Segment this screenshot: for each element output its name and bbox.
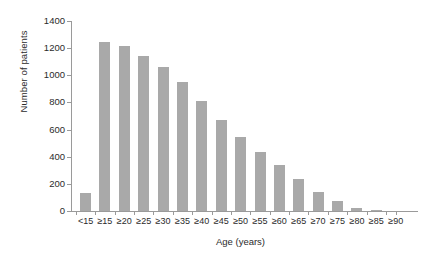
- bar: [99, 42, 110, 211]
- x-tick-mark: [289, 211, 290, 215]
- bar: [80, 193, 91, 211]
- x-tick-mark: [192, 211, 193, 215]
- x-tick-label: ≥80: [347, 217, 366, 226]
- y-tick-mark: [67, 184, 71, 185]
- bar: [313, 192, 324, 211]
- x-tick-label: ≥65: [289, 217, 308, 226]
- x-tick-mark: [396, 211, 397, 215]
- y-tick-label: 1200: [44, 43, 65, 53]
- x-tick-label: ≥60: [270, 217, 289, 226]
- x-tick-mark: [212, 211, 213, 215]
- x-tick-label: ≥85: [367, 217, 386, 226]
- x-tick-mark: [134, 211, 135, 215]
- x-tick-label: ≥15: [95, 217, 114, 226]
- x-tick-mark: [386, 211, 387, 215]
- x-tick-mark: [347, 211, 348, 215]
- x-tick-label: ≥40: [192, 217, 211, 226]
- x-tick-label: ≥25: [134, 217, 153, 226]
- bar: [255, 152, 266, 211]
- x-axis-title: Age (years): [63, 236, 418, 247]
- y-tick-mark: [67, 75, 71, 76]
- x-tick-label: ≥50: [231, 217, 250, 226]
- x-tick-mark: [115, 211, 116, 215]
- y-tick-mark: [67, 102, 71, 103]
- x-tick-mark: [270, 211, 271, 215]
- x-tick-mark: [95, 211, 96, 215]
- y-tick-mark: [67, 211, 71, 212]
- x-tick-mark: [153, 211, 154, 215]
- bar: [216, 120, 227, 211]
- y-tick-label: 0: [60, 206, 65, 216]
- x-tick-mark: [250, 211, 251, 215]
- x-tick-label: ≥75: [328, 217, 347, 226]
- x-tick-mark: [308, 211, 309, 215]
- bar: [177, 82, 188, 211]
- bar: [119, 46, 130, 211]
- bar: [293, 179, 304, 211]
- bar: [332, 201, 343, 211]
- bar: [351, 208, 362, 211]
- x-tick-mark: [173, 211, 174, 215]
- y-axis-line: [71, 21, 72, 211]
- y-tick-mark: [67, 157, 71, 158]
- y-tick-label: 200: [49, 179, 65, 189]
- x-tick-label: ≥90: [386, 217, 405, 226]
- x-tick-label: ≥70: [308, 217, 327, 226]
- plot-area: 0200400600800100012001400 <15≥15≥20≥25≥3…: [71, 21, 418, 211]
- y-axis-title: Number of patients: [18, 0, 29, 152]
- x-tick-label: ≥35: [173, 217, 192, 226]
- x-tick-mark: [231, 211, 232, 215]
- chart-figure: Number of patients 020040060080010001200…: [0, 0, 426, 262]
- x-tick-mark: [328, 211, 329, 215]
- y-tick-label: 1400: [44, 16, 65, 26]
- y-tick-mark: [67, 130, 71, 131]
- x-tick-label: <15: [76, 217, 95, 226]
- x-tick-label: ≥45: [212, 217, 231, 226]
- bar: [196, 101, 207, 211]
- bar: [274, 165, 285, 211]
- y-tick-mark: [67, 48, 71, 49]
- x-tick-mark: [76, 211, 77, 215]
- y-tick-mark: [67, 21, 71, 22]
- x-tick-mark: [367, 211, 368, 215]
- bar: [138, 56, 149, 211]
- y-tick-label: 600: [49, 125, 65, 135]
- y-tick-label: 400: [49, 152, 65, 162]
- x-tick-label: ≥55: [250, 217, 269, 226]
- y-tick-label: 1000: [44, 71, 65, 81]
- x-tick-label: ≥30: [153, 217, 172, 226]
- x-tick-label: ≥20: [115, 217, 134, 226]
- y-tick-label: 800: [49, 98, 65, 108]
- bar: [371, 210, 382, 211]
- bar: [235, 137, 246, 211]
- bar: [158, 67, 169, 211]
